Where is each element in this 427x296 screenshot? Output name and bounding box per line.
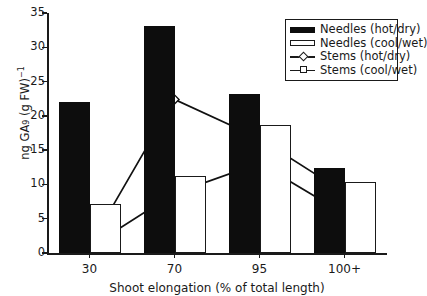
chart-legend: Needles (hot/dry)Needles (cool/wet)Stems… <box>285 19 398 81</box>
legend-label: Needles (cool/wet) <box>320 37 427 51</box>
y-tick-label: 5 <box>5 213 45 225</box>
y-tick-label: 35 <box>5 7 45 19</box>
x-tick <box>174 253 176 258</box>
bar <box>175 176 206 253</box>
y-tick-label: 0 <box>5 247 45 259</box>
legend-label: Needles (hot/dry) <box>320 23 421 37</box>
bar <box>90 204 121 253</box>
legend-key-icon <box>289 64 316 76</box>
x-tick <box>344 253 346 258</box>
y-axis-label: ng GA9 (g FW)−1 <box>17 33 32 193</box>
x-tick-label: 95 <box>230 262 290 276</box>
legend-label: Stems (hot/dry) <box>320 50 410 64</box>
legend-item: Needles (cool/wet) <box>289 37 393 51</box>
bar <box>144 26 175 253</box>
legend-key-icon <box>289 24 316 36</box>
y-axis-label-text: ng GA9 (g FW)−1 <box>18 66 32 160</box>
legend-item: Stems (hot/dry) <box>289 50 393 64</box>
bar <box>314 168 345 253</box>
legend-key-icon <box>289 37 316 49</box>
legend-item: Needles (hot/dry) <box>289 23 393 37</box>
x-tick-label: 30 <box>60 262 120 276</box>
x-axis-label: Shoot elongation (% of total length) <box>47 281 387 295</box>
bar <box>345 182 376 253</box>
x-tick-label: 100+ <box>315 262 375 276</box>
x-tick-label: 70 <box>145 262 205 276</box>
line-path <box>90 163 345 247</box>
legend-item: Stems (cool/wet) <box>289 64 393 78</box>
legend-label: Stems (cool/wet) <box>320 64 417 78</box>
bar <box>59 102 90 253</box>
bar <box>229 94 260 253</box>
bar <box>260 125 291 253</box>
x-tick <box>259 253 261 258</box>
legend-key-icon <box>289 51 316 63</box>
x-axis-line <box>47 253 387 255</box>
x-tick <box>89 253 91 258</box>
